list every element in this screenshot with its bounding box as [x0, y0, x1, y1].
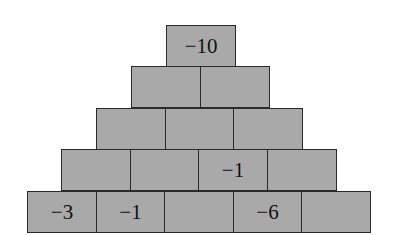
pyramid-cell: −1	[96, 191, 166, 233]
pyramid-row-5: −3 −1 −6	[27, 191, 371, 233]
pyramid-cell	[301, 191, 371, 233]
pyramid-cell	[61, 149, 131, 191]
pyramid-cell	[267, 149, 337, 191]
number-pyramid: −10 −1 −3 −1 −6	[0, 0, 396, 235]
pyramid-cell: −10	[166, 25, 236, 67]
pyramid-cell: −6	[233, 191, 303, 233]
pyramid-cell	[165, 108, 235, 150]
pyramid-cell: −1	[198, 149, 268, 191]
pyramid-cell	[200, 66, 270, 108]
pyramid-row-1: −10	[166, 25, 236, 67]
pyramid-cell	[130, 149, 200, 191]
pyramid-cell	[164, 191, 234, 233]
pyramid-cell	[233, 108, 303, 150]
pyramid-row-3	[96, 108, 303, 150]
pyramid-row-4: −1	[61, 149, 337, 191]
pyramid-row-2	[131, 66, 270, 108]
pyramid-cell	[131, 66, 201, 108]
pyramid-cell: −3	[27, 191, 97, 233]
pyramid-cell	[96, 108, 166, 150]
